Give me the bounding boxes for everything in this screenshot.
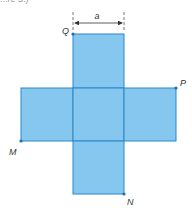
point-q-dot bbox=[71, 32, 74, 35]
square-center bbox=[73, 88, 124, 141]
cube-net bbox=[21, 34, 176, 194]
dimension-a: a bbox=[73, 11, 124, 32]
point-m-dot bbox=[19, 139, 22, 142]
square-right bbox=[124, 88, 176, 141]
point-n-dot bbox=[122, 192, 125, 195]
point-m-label: M bbox=[9, 147, 17, 157]
square-bottom bbox=[73, 141, 124, 194]
point-p-dot bbox=[174, 86, 177, 89]
point-p-label: P bbox=[180, 78, 186, 88]
point-n-label: N bbox=[127, 197, 134, 207]
cube-net-diagram: a Q P M N bbox=[0, 0, 192, 210]
square-top bbox=[73, 34, 124, 88]
square-left bbox=[21, 88, 73, 141]
dimension-label: a bbox=[94, 11, 99, 21]
point-q-label: Q bbox=[62, 26, 69, 36]
